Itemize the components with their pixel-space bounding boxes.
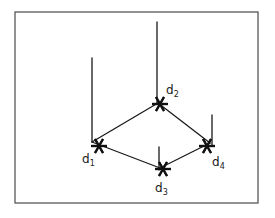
figure-background — [0, 0, 275, 218]
line-drawing-canvas: d1 d2 d3 d4 — [0, 0, 275, 218]
figure-container: d1 d2 d3 d4 — [0, 0, 275, 218]
